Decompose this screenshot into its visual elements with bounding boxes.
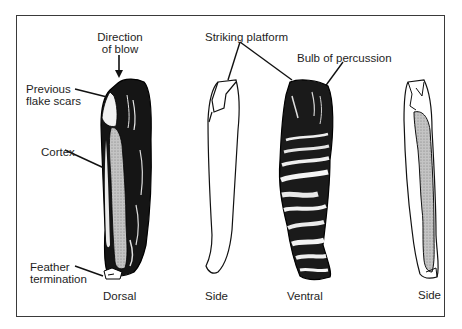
cortex-label: Cortex	[41, 146, 75, 158]
side-view-left-drawing	[206, 80, 239, 273]
bulb-of-percussion-label: Bulb of percussion	[297, 52, 392, 64]
dorsal-flake-drawing	[101, 79, 151, 279]
side-view-right-drawing	[404, 80, 438, 278]
striking-platform-leader-ventral	[240, 42, 292, 80]
direction-of-blow-arrow	[115, 55, 123, 78]
bulb-of-percussion-leader	[324, 62, 343, 88]
striking-platform-leader-side	[228, 42, 240, 80]
feather-termination-line1: Feather	[30, 261, 87, 273]
previous-flake-scars-line2: flake scars	[26, 95, 81, 107]
feather-termination-label: Feather termination	[30, 261, 87, 285]
view-label-side-left: Side	[205, 290, 228, 302]
direction-of-blow-line1: Direction	[92, 31, 148, 43]
view-label-ventral: Ventral	[287, 290, 323, 302]
feather-termination-line2: termination	[30, 273, 87, 285]
striking-platform-label: Striking platform	[205, 31, 288, 43]
view-label-side-right: Side	[418, 289, 441, 301]
direction-of-blow-line2: of blow	[92, 43, 148, 55]
direction-of-blow-label: Direction of blow	[92, 31, 148, 55]
previous-flake-scars-line1: Previous	[26, 83, 81, 95]
previous-flake-scars-label: Previous flake scars	[26, 83, 81, 107]
ventral-flake-drawing	[279, 80, 332, 280]
view-label-dorsal: Dorsal	[103, 290, 136, 302]
